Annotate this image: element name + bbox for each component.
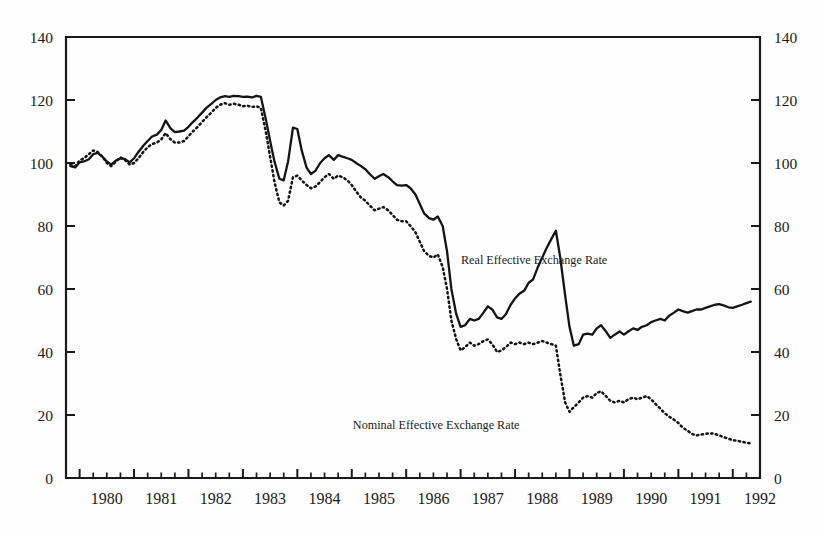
y-axis-label-right: 100 <box>774 155 798 172</box>
x-axis-labels: 1980198119821983198419851986198719881989… <box>91 490 776 507</box>
x-axis-label: 1982 <box>200 490 232 507</box>
y-axis-right-ticks <box>751 100 760 415</box>
y-axis-label-left: 80 <box>38 218 54 235</box>
x-axis-label: 1987 <box>472 490 504 507</box>
y-axis-label-left: 120 <box>30 92 54 109</box>
x-axis-label: 1986 <box>417 490 449 507</box>
series-line-real <box>70 96 750 346</box>
y-axis-label-right: 140 <box>774 29 798 46</box>
x-axis-label: 1989 <box>581 490 613 507</box>
y-axis-right-labels: 020406080100120140 <box>774 29 798 487</box>
nominal-series-label: Nominal Effective Exchange Rate <box>353 418 520 432</box>
y-axis-left-ticks <box>66 100 75 415</box>
y-axis-label-left: 140 <box>30 29 54 46</box>
real-series-label: Real Effective Exchange Rate <box>461 253 607 267</box>
x-axis-label: 1985 <box>363 490 395 507</box>
x-axis-ticks <box>80 469 760 478</box>
y-axis-label-right: 80 <box>774 218 790 235</box>
y-axis-label-left: 60 <box>38 281 54 298</box>
data-series-group <box>70 96 750 443</box>
y-axis-label-left: 20 <box>38 407 54 424</box>
chart-container: 020406080100120140 020406080100120140 19… <box>0 0 824 533</box>
y-axis-label-right: 40 <box>774 344 790 361</box>
y-axis-label-left: 40 <box>38 344 54 361</box>
y-axis-left-labels: 020406080100120140 <box>30 29 54 487</box>
y-axis-label-right: 20 <box>774 407 790 424</box>
y-axis-label-right: 120 <box>774 92 798 109</box>
x-axis-label: 1988 <box>526 490 558 507</box>
x-axis-label: 1983 <box>254 490 286 507</box>
x-axis-label: 1992 <box>744 490 776 507</box>
x-axis-label: 1984 <box>309 490 341 507</box>
exchange-rate-line-chart: 020406080100120140 020406080100120140 19… <box>0 0 824 533</box>
y-axis-label-left: 0 <box>45 470 53 487</box>
x-axis-label: 1991 <box>690 490 722 507</box>
y-axis-label-right: 0 <box>774 470 782 487</box>
x-axis-label: 1980 <box>91 490 123 507</box>
y-axis-label-right: 60 <box>774 281 790 298</box>
x-axis-label: 1981 <box>145 490 177 507</box>
series-annotations: Real Effective Exchange RateNominal Effe… <box>353 253 607 432</box>
y-axis-label-left: 100 <box>30 155 54 172</box>
plot-frame <box>66 37 760 478</box>
series-line-nominal <box>70 103 750 443</box>
x-axis-label: 1990 <box>635 490 667 507</box>
